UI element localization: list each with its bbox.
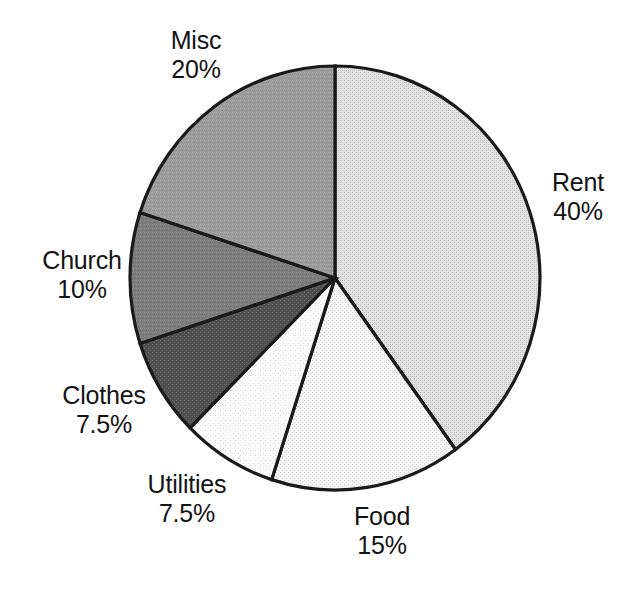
pie-label-utilities-name: Utilities: [128, 470, 246, 499]
pie-label-church: Church 10%: [30, 246, 134, 305]
pie-label-rent-value: 40%: [538, 197, 618, 226]
pie-label-rent-name: Rent: [538, 168, 618, 197]
pie-label-clothes-name: Clothes: [48, 381, 160, 410]
pie-label-utilities: Utilities 7.5%: [128, 470, 246, 529]
pie-label-misc-value: 20%: [148, 55, 244, 84]
pie-label-misc: Misc 20%: [148, 26, 244, 85]
pie-label-utilities-value: 7.5%: [128, 499, 246, 528]
pie-label-misc-name: Misc: [148, 26, 244, 55]
pie-label-clothes-value: 7.5%: [48, 410, 160, 439]
pie-label-food-name: Food: [336, 502, 428, 531]
pie-label-food-value: 15%: [336, 531, 428, 560]
pie-label-church-name: Church: [30, 246, 134, 275]
pie-label-food: Food 15%: [336, 502, 428, 561]
pie-label-rent: Rent 40%: [538, 168, 618, 227]
pie-chart: Misc 20% Rent 40% Church 10% Clothes 7.5…: [0, 0, 625, 591]
pie-label-clothes: Clothes 7.5%: [48, 381, 160, 440]
pie-label-church-value: 10%: [30, 275, 134, 304]
